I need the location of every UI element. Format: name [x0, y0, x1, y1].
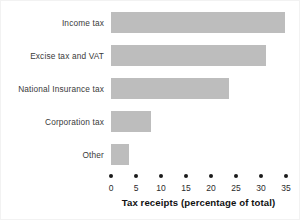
- category-label: Income tax: [1, 18, 104, 28]
- bar-row: Excise tax and VAT: [1, 45, 300, 66]
- bar-row: National Insurance tax: [1, 78, 300, 99]
- bar-corporation-tax: [111, 111, 151, 132]
- category-label: National Insurance tax: [1, 84, 104, 94]
- bar-excise-tax-and-vat: [111, 45, 266, 66]
- bar-income-tax: [111, 12, 285, 33]
- bar-national-insurance-tax: [111, 78, 229, 99]
- bar-other: [111, 144, 129, 165]
- bar-row: Income tax: [1, 12, 300, 33]
- category-label: Corporation tax: [1, 117, 104, 127]
- category-label: Excise tax and VAT: [1, 51, 104, 61]
- bar-row: Other: [1, 144, 300, 165]
- plot-area: Income tax Excise tax and VAT National I…: [1, 1, 300, 220]
- bar-chart-figure: Income tax Excise tax and VAT National I…: [0, 0, 300, 220]
- bar-row: Corporation tax: [1, 111, 300, 132]
- category-label: Other: [1, 150, 104, 160]
